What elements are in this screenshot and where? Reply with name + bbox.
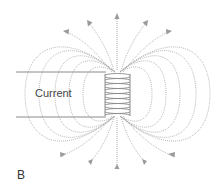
panel-label: B: [17, 168, 25, 182]
arrow-up-icon: [115, 13, 120, 19]
arrow-up-right-icon: [143, 20, 149, 27]
arrow-down-left-icon: [88, 159, 93, 165]
arrow-up-left-icon: [87, 20, 93, 27]
solenoid-field-diagram: [0, 0, 219, 186]
arrow-left-bottom-icon: [60, 152, 66, 158]
current-label: Current: [35, 87, 72, 99]
arrow-down-center-icon: [115, 164, 120, 169]
arrow-left-icon: [63, 29, 69, 35]
right-field-loops: [120, 47, 210, 141]
arrow-right-bottom-icon: [168, 152, 175, 158]
arrow-down-right-icon: [142, 159, 147, 165]
bottom-field-lines: [63, 116, 171, 166]
arrow-right-icon: [166, 29, 172, 35]
top-field-lines: [67, 18, 168, 72]
solenoid-coil: [105, 73, 130, 116]
